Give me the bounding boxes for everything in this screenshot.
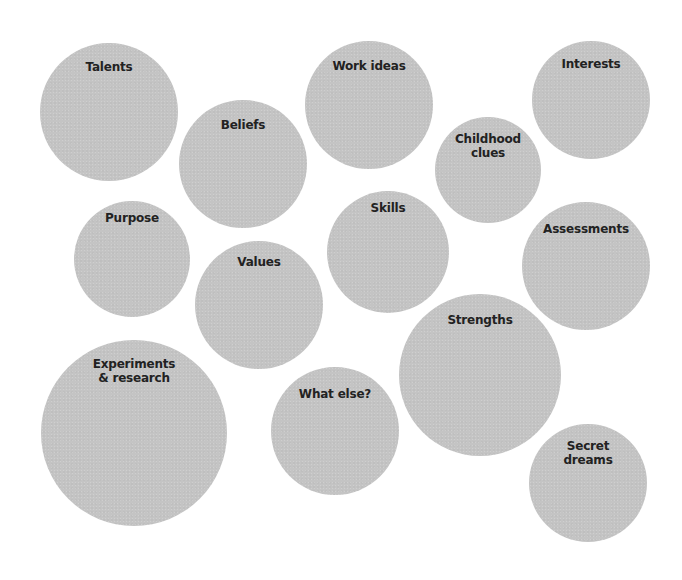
bubble-label: Childhood clues: [435, 132, 541, 160]
bubble-work-ideas: Work ideas: [305, 41, 433, 169]
bubble-interests: Interests: [532, 41, 650, 159]
bubble-label: Purpose: [74, 211, 190, 225]
bubble-strengths: Strengths: [399, 294, 561, 456]
bubble-label: Interests: [532, 57, 650, 71]
bubble-experiments: Experiments & research: [41, 340, 227, 526]
bubble-values: Values: [195, 241, 323, 369]
bubble-childhood-clues: Childhood clues: [435, 117, 541, 223]
bubble-purpose: Purpose: [74, 201, 190, 317]
bubble-beliefs: Beliefs: [179, 100, 307, 228]
bubble-label: Beliefs: [179, 118, 307, 132]
bubble-label: Talents: [40, 60, 178, 74]
bubble-label: Experiments & research: [41, 357, 227, 385]
bubble-skills: Skills: [327, 191, 449, 313]
bubble-label: What else?: [271, 387, 399, 401]
bubble-label: Strengths: [399, 313, 561, 327]
bubble-label: Skills: [327, 201, 449, 215]
bubble-diagram: TalentsBeliefsWork ideasInterestsChildho…: [0, 0, 682, 580]
bubble-label: Secret dreams: [529, 439, 647, 467]
bubble-assessments: Assessments: [522, 202, 650, 330]
bubble-secret-dreams: Secret dreams: [529, 424, 647, 542]
bubble-label: Values: [195, 255, 323, 269]
bubble-label: Assessments: [522, 222, 650, 236]
bubble-label: Work ideas: [305, 59, 433, 73]
bubble-talents: Talents: [40, 43, 178, 181]
bubble-what-else: What else?: [271, 367, 399, 495]
